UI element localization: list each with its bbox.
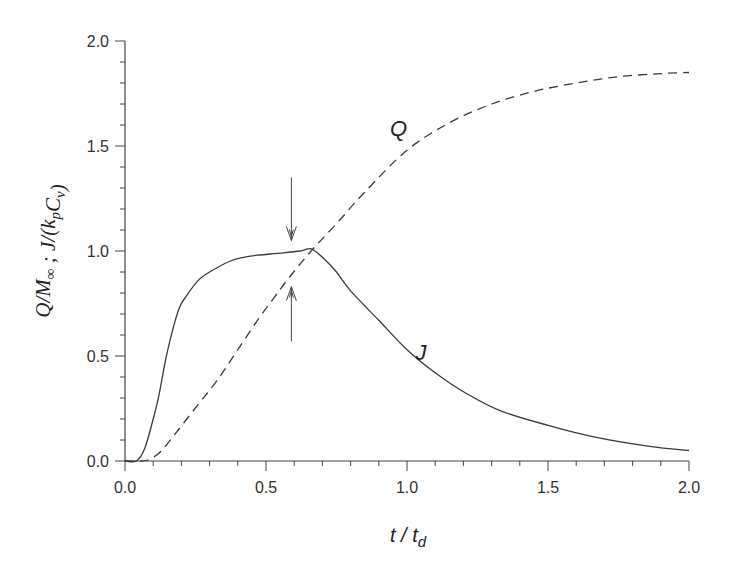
series-j-line xyxy=(125,249,689,462)
y-title-part: Q/M xyxy=(31,278,55,318)
y-tick-label: 1.5 xyxy=(87,138,109,155)
y-title-subscript: ∞ xyxy=(42,268,58,279)
curve-label-j: J xyxy=(414,340,427,365)
y-axis-title: Q/M∞ ; J/(kpCv) xyxy=(31,184,70,317)
y-title-part: ; J/(k xyxy=(36,219,60,269)
curve-label-q: Q xyxy=(390,116,407,141)
y-tick-label: 2.0 xyxy=(87,33,109,50)
x-tick-label: 0.5 xyxy=(255,479,277,496)
x-tick-label: 1.0 xyxy=(396,479,418,496)
x-tick-label: 1.5 xyxy=(537,479,559,496)
y-tick-label: 0.5 xyxy=(87,348,109,365)
y-title-part: C xyxy=(41,197,65,212)
y-tick-label: 1.0 xyxy=(87,243,109,260)
chart: 0.00.51.01.52.00.00.51.01.52.0 QJ t / td… xyxy=(0,0,732,569)
annotations-layer: QJ xyxy=(286,116,427,366)
x-axis-title: t / td xyxy=(390,524,427,550)
x-tick-label: 0.0 xyxy=(114,479,136,496)
x-tick-label: 2.0 xyxy=(678,479,700,496)
axes: 0.00.51.01.52.00.00.51.01.52.0 xyxy=(87,33,700,496)
y-tick-label: 0.0 xyxy=(87,453,109,470)
y-title-part: ) xyxy=(46,184,70,192)
